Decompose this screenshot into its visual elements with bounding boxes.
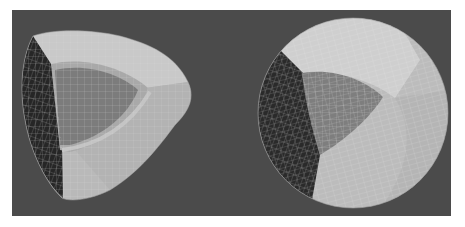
figure-canvas	[0, 0, 465, 227]
mesh-comparison-figure	[0, 0, 465, 227]
